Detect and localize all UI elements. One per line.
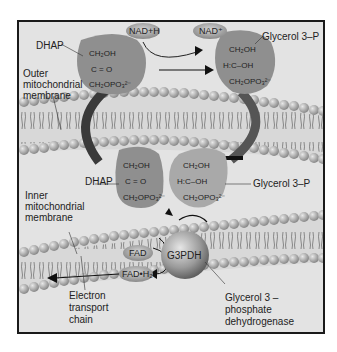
nadh-label: NAD+H: [129, 26, 160, 37]
g3pdh-label: G3PDH: [167, 250, 201, 261]
glycerol3p-top-line1: CH₂OH: [229, 44, 256, 55]
glycerol3p-top-line2: H:C–OH: [223, 60, 253, 71]
enzyme-name-3: dehydrogenase: [225, 316, 294, 327]
etc-label-1: Electron: [69, 290, 106, 301]
dhap-bottom-line2: C = O: [125, 176, 146, 187]
dhap-bottom-line3: CH₂OPO₃²⁻: [123, 192, 165, 203]
inner-membrane-label-1: Inner: [25, 190, 48, 201]
glycerol3p-bottom-line1: CH₂OH: [183, 160, 210, 171]
glycerol3p-bottom-line2: H:C–OH: [177, 176, 207, 187]
enzyme-name-2: phosphate: [225, 304, 272, 315]
outer-membrane-label-3: membrane: [23, 90, 71, 101]
fadh2-label: FAD•H₂: [122, 269, 153, 280]
glycerol3p-bottom-line3: CH₂OPO₃²⁻: [183, 192, 225, 203]
nad-plus-label: NAD⁺: [199, 26, 223, 37]
enzyme-name-1: Glycerol 3 –: [225, 292, 278, 303]
dhap-top-line1: CH₂OH: [89, 48, 116, 59]
dhap-top-line2: C = O: [91, 64, 112, 75]
diagram-frame: DHAP CH₂OH C = O CH₂OPO₃²⁻ NAD+H NAD⁺ Gl…: [17, 20, 325, 334]
glycerol3p-bottom-label: Glycerol 3–P: [253, 178, 310, 189]
glycerol3p-top-label: Glycerol 3–P: [262, 31, 319, 42]
dhap-top-line3: CH₂OPO₃²⁻: [89, 79, 131, 90]
glycerol3p-top-line3: CH₂OPO₃²⁻: [229, 76, 271, 87]
outer-membrane-label-2: mitochondrial: [23, 79, 82, 90]
fad-label: FAD: [129, 248, 147, 259]
inner-membrane-label-2: mitochondrial: [25, 201, 84, 212]
diagram-graphics: [19, 22, 323, 332]
dhap-bottom-line1: CH₂OH: [123, 160, 150, 171]
outer-membrane-label-1: Outer: [23, 68, 48, 79]
etc-label-3: chain: [69, 314, 93, 325]
dhap-top-label: DHAP: [36, 40, 64, 51]
etc-label-2: transport: [69, 302, 108, 313]
inner-membrane-label-3: membrane: [25, 212, 73, 223]
dhap-bottom-label: DHAP: [85, 176, 113, 187]
